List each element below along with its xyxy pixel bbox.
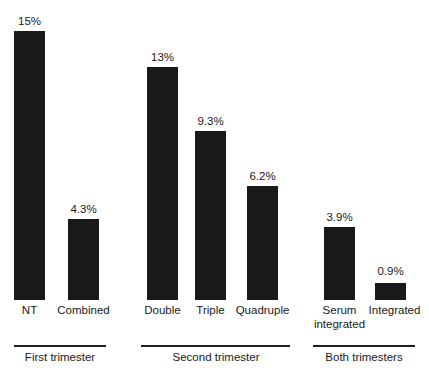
bar-value-label: 9.3% [188, 115, 233, 128]
bar [147, 67, 178, 300]
bar-chart: 15%4.3%13%9.3%6.2%3.9%0.9% NTCombinedDou… [0, 0, 429, 373]
group-underline [14, 345, 106, 347]
category-label: Combined [54, 304, 113, 318]
bar-value-label: 13% [141, 51, 184, 64]
category-label-line: Serum [310, 304, 369, 318]
group-underline [313, 345, 415, 347]
category-label-line: Integrated [363, 304, 426, 318]
group-label: Both trimesters [312, 350, 416, 364]
bar-value-label: 4.3% [61, 203, 106, 216]
bar [324, 227, 355, 300]
category-label: Serumintegrated [310, 304, 369, 331]
bar [247, 186, 278, 300]
category-label-line: Double [135, 304, 190, 318]
bar [14, 31, 45, 300]
bar [375, 283, 406, 300]
category-label: Double [135, 304, 190, 318]
category-label: Quadruple [230, 304, 295, 318]
category-label-line: Quadruple [230, 304, 295, 318]
bar-value-label: 15% [8, 15, 51, 28]
bar-value-label: 6.2% [240, 170, 285, 183]
group-underline [141, 345, 290, 347]
category-label-line: integrated [310, 318, 369, 332]
bar-value-label: 0.9% [368, 265, 413, 278]
bar [195, 131, 226, 300]
category-label: Integrated [363, 304, 426, 318]
bar-value-label: 3.9% [317, 211, 362, 224]
category-label-line: Combined [54, 304, 113, 318]
group-label: Second trimester [155, 350, 277, 364]
group-label: First trimester [7, 350, 113, 364]
bar [68, 219, 99, 300]
